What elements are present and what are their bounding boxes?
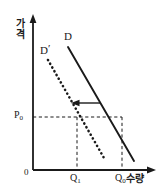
demand-curve-d-label: D (64, 31, 72, 42)
p0-label-base: P (14, 109, 20, 120)
demand-shift-diagram: 가 격 수량 0 P0 Q1 Q0 D D′ (0, 0, 160, 192)
d-prime-label-mark: ′ (48, 42, 50, 54)
q0-label: Q0 (115, 173, 126, 183)
origin-label: 0 (24, 168, 29, 177)
q1-label-subscript: 1 (77, 177, 81, 185)
demand-curves-group (48, 47, 134, 161)
y-axis-label: 가 격 (13, 18, 27, 40)
axes-group (30, 14, 156, 173)
shift-arrow-group (71, 100, 101, 106)
y-axis-label-char-2: 격 (13, 29, 27, 40)
demand-curve-d-prime (48, 60, 104, 158)
y-axis-label-char-1: 가 (13, 18, 27, 29)
p0-label: P0 (14, 110, 23, 120)
q1-label: Q1 (70, 173, 81, 183)
d-prime-label-base: D (40, 44, 48, 56)
y-axis-arrowhead (30, 14, 37, 23)
x-axis-arrowhead (147, 167, 156, 174)
reference-lines-group (33, 117, 122, 170)
demand-curve-d-prime-label: D′ (40, 45, 50, 56)
q0-label-subscript: 0 (122, 177, 126, 185)
p0-label-subscript: 0 (20, 114, 24, 122)
x-axis-label: 수량 (126, 174, 143, 184)
